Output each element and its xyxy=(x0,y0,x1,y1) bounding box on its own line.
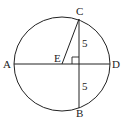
length-upper: 5 xyxy=(82,37,88,49)
label-a: A xyxy=(3,58,11,70)
label-b: B xyxy=(76,107,83,119)
label-e: E xyxy=(54,52,61,64)
label-d: D xyxy=(112,58,120,70)
length-lower: 5 xyxy=(82,80,88,92)
right-angle-marker xyxy=(72,57,79,64)
label-c: C xyxy=(76,5,83,17)
circle-diagram: A D C B E 5 5 xyxy=(0,0,129,120)
